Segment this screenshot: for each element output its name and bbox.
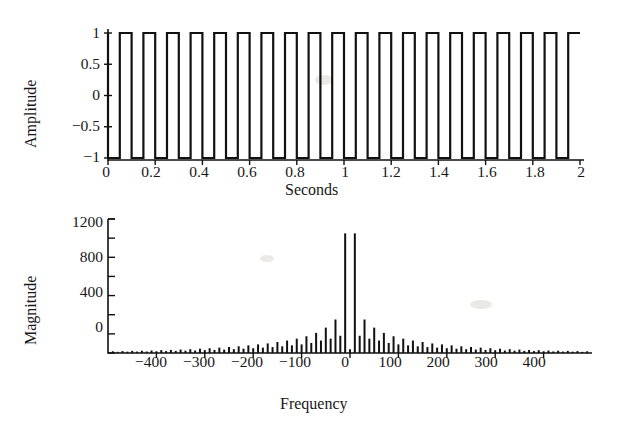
spectrum-xtick-label: 300 [462, 353, 510, 371]
waveform-xtick-label: 1.2 [373, 163, 409, 181]
spectrum-xtick-label: −200 [221, 353, 273, 371]
spectrum-ytick-label: 1200 [40, 213, 103, 231]
spectrum-xtick-label: −400 [125, 353, 177, 371]
waveform-xtick-label: 0.8 [277, 163, 313, 181]
waveform-ytick-label: 0.5 [52, 55, 100, 73]
spectrum-xtick-label: −300 [173, 353, 225, 371]
spectrum-bars [113, 233, 587, 353]
waveform-x-axis-label: Seconds [285, 181, 338, 199]
spectrum-xtick-label: 0 [330, 353, 360, 371]
spectrum-x-axis-label: Frequency [280, 395, 348, 413]
waveform-xtick-label: 1.6 [469, 163, 505, 181]
signal-processing-figure: Amplitude Seconds 1 0.5 0 −0.5 −1 0 0.2 … [0, 0, 620, 424]
spectrum-y-axis-label: Magnitude [22, 276, 40, 345]
waveform-xtick-label: 0.2 [133, 163, 169, 181]
spectrum-ytick-label: 800 [40, 248, 103, 266]
magnitude-spectrum-panel: Magnitude Frequency 1200 800 400 0 −400 … [0, 205, 620, 424]
waveform-xtick-label: 1.4 [421, 163, 457, 181]
spectrum-xtick-label: 100 [366, 353, 414, 371]
waveform-ytick-label: −0.5 [45, 117, 100, 135]
spectrum-axes [108, 219, 592, 358]
spectrum-xtick-label: −100 [269, 353, 321, 371]
waveform-xtick-label: 1.8 [517, 163, 553, 181]
waveform-ytick-label: 1 [62, 24, 100, 42]
waveform-xtick-label: 0 [91, 163, 121, 181]
spectrum-xtick-label: 200 [414, 353, 462, 371]
waveform-xtick-label: 2 [568, 163, 594, 181]
waveform-xtick-label: 0.6 [229, 163, 265, 181]
magnitude-spectrum-plot [0, 205, 620, 424]
square-wave-panel: Amplitude Seconds 1 0.5 0 −0.5 −1 0 0.2 … [0, 0, 620, 205]
spectrum-xtick-label: 400 [510, 353, 558, 371]
spectrum-ytick-label: 400 [40, 283, 103, 301]
waveform-xtick-label: 0.4 [181, 163, 217, 181]
waveform-y-axis-label: Amplitude [22, 80, 40, 148]
waveform-ytick-label: 0 [62, 86, 100, 104]
square-wave-trace [108, 33, 580, 158]
waveform-xtick-label: 1 [332, 163, 358, 181]
spectrum-ytick-label: 0 [40, 318, 103, 336]
